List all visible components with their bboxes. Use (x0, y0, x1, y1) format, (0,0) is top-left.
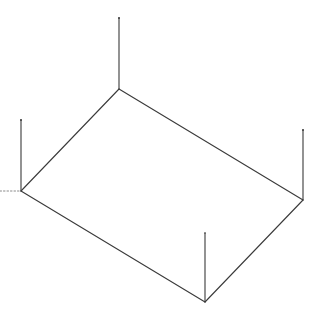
post-tip-right (302, 129, 304, 131)
post-tip-bottom (204, 232, 206, 234)
isometric-plate-diagram (0, 0, 322, 326)
edge-left-bottom (21, 191, 205, 302)
post-tip-left (20, 119, 22, 121)
edge-right-bottom (205, 200, 303, 302)
edge-top-right (119, 89, 303, 200)
post-tip-top (118, 17, 120, 19)
diagram-canvas (0, 0, 322, 326)
edge-top-left (21, 89, 119, 191)
